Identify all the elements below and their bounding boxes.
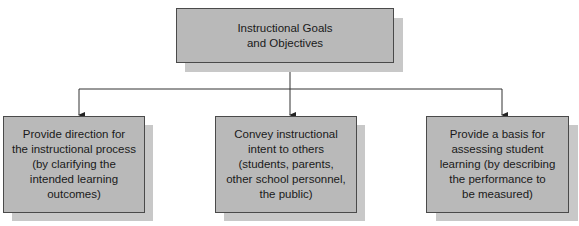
child-node-3: Provide a basis for assessing student le… bbox=[426, 116, 569, 213]
child-node-1-label: Provide direction for the instructional … bbox=[12, 127, 136, 202]
child-node-2: Convey instructional intent to others (s… bbox=[215, 116, 357, 213]
child-node-1: Provide direction for the instructional … bbox=[3, 116, 145, 213]
root-node-label: Instructional Goals and Objectives bbox=[237, 21, 332, 51]
child-node-2-label: Convey instructional intent to others (s… bbox=[226, 127, 346, 202]
root-node: Instructional Goals and Objectives bbox=[176, 8, 394, 63]
child-node-3-label: Provide a basis for assessing student le… bbox=[440, 127, 556, 202]
